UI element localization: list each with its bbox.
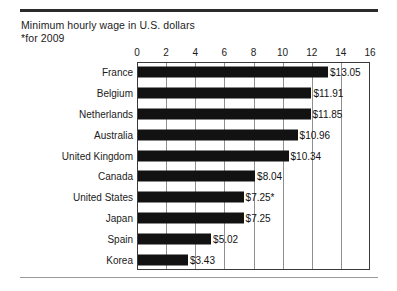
category-label: Spain <box>107 233 133 244</box>
category-label: Netherlands <box>79 108 133 119</box>
x-tick-label: 14 <box>335 47 346 58</box>
bar-value-label: $13.05 <box>330 67 361 78</box>
bar-row: Netherlands$11.85 <box>0 104 397 125</box>
category-label: Canada <box>98 171 133 182</box>
category-label: Australia <box>94 129 133 140</box>
bar-row: Korea$3.43 <box>0 249 397 270</box>
bar-value-label: $7.25* <box>246 192 275 203</box>
bar-row: France$13.05 <box>0 62 397 83</box>
bar <box>138 150 289 161</box>
category-label: France <box>102 67 133 78</box>
chart-page: Minimum hourly wage in U.S. dollars *for… <box>0 0 397 291</box>
bar-row: United States$7.25* <box>0 187 397 208</box>
bar <box>138 254 188 265</box>
bar <box>138 88 311 99</box>
x-tick-label: 0 <box>134 47 140 58</box>
x-axis-ticks: 0246810121416 <box>137 47 370 60</box>
category-label: Belgium <box>97 88 133 99</box>
bar-row: Australia$10.96 <box>0 124 397 145</box>
x-tick-label: 8 <box>251 47 257 58</box>
bar-value-label: $11.85 <box>313 108 343 119</box>
bar-value-label: $11.91 <box>313 88 343 99</box>
bar-value-label: $10.96 <box>300 129 331 140</box>
x-tick-label: 16 <box>364 47 375 58</box>
category-label: United States <box>73 192 133 203</box>
bar-rows: France$13.05Belgium$11.91Netherlands$11.… <box>0 62 397 270</box>
bar-row: Canada$8.04 <box>0 166 397 187</box>
x-tick-label: 2 <box>163 47 169 58</box>
bar-value-label: $8.04 <box>257 171 282 182</box>
x-tick-label: 6 <box>222 47 228 58</box>
bar-value-label: $5.02 <box>213 233 238 244</box>
category-label: United Kingdom <box>62 150 133 161</box>
x-tick-label: 12 <box>306 47 317 58</box>
category-label: Korea <box>106 254 133 265</box>
bar-row: Japan$7.25 <box>0 208 397 229</box>
bar <box>138 108 311 119</box>
bar-value-label: $7.25 <box>246 212 271 223</box>
bar <box>138 192 244 203</box>
bar-row: Belgium$11.91 <box>0 83 397 104</box>
bottom-divider-rule <box>20 277 378 278</box>
bar <box>138 129 298 140</box>
bar-row: United Kingdom$10.34 <box>0 145 397 166</box>
x-tick-label: 4 <box>192 47 198 58</box>
bar <box>138 233 211 244</box>
bar-chart: 0246810121416 France$13.05Belgium$11.91N… <box>0 0 397 291</box>
category-label: Japan <box>106 212 133 223</box>
bar-row: Spain$5.02 <box>0 228 397 249</box>
x-tick-label: 10 <box>277 47 288 58</box>
bar <box>138 67 328 78</box>
bar-value-label: $10.34 <box>291 150 322 161</box>
bar-value-label: $3.43 <box>190 254 215 265</box>
bar <box>138 212 244 223</box>
bar <box>138 171 255 182</box>
